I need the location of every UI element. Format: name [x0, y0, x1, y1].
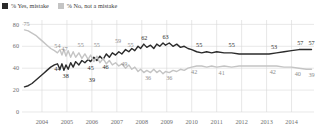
chart-legend: % Yes, mistake % No, not a mistake	[2, 2, 117, 9]
data-label: 53	[271, 43, 277, 50]
data-label: 36	[145, 74, 151, 81]
x-tick-label: 2006	[86, 118, 98, 125]
data-label: 39	[89, 76, 95, 83]
data-label: 38	[63, 72, 69, 79]
data-label: 57	[297, 39, 303, 46]
data-label: 39	[308, 71, 314, 78]
data-label: 63	[162, 33, 168, 40]
legend-item-yes[interactable]: % Yes, mistake	[2, 2, 49, 9]
legend-swatch-yes	[2, 3, 8, 9]
legend-item-no[interactable]: % No, not a mistake	[58, 2, 117, 9]
legend-swatch-no	[58, 3, 64, 9]
data-label: 42	[270, 68, 276, 75]
data-label: 44	[54, 65, 60, 72]
x-tick-label: 2010	[186, 118, 198, 125]
data-label: 54	[54, 42, 60, 49]
line-chart-svg: 020406080 443845463962635555535757755447…	[0, 14, 316, 118]
data-label: 55	[94, 41, 100, 48]
x-tick-label: 2012	[235, 118, 247, 125]
x-tick-label: 2014	[285, 118, 297, 125]
data-label: 45	[88, 64, 94, 71]
data-label: 42	[191, 68, 197, 75]
data-label: 55	[229, 41, 235, 48]
y-axis-tick-labels: 020406080	[13, 21, 19, 116]
x-axis: 2004200520062007200820092010201120122013…	[0, 116, 316, 128]
data-label: 75	[23, 20, 29, 27]
x-axis-tick-labels: 2004200520062007200820092010201120122013…	[36, 118, 298, 125]
x-tick-label: 2009	[161, 118, 173, 125]
x-tick-label: 2013	[260, 118, 272, 125]
data-label: 59	[115, 37, 121, 44]
y-tick-label: 0	[16, 108, 19, 115]
y-tick-label: 40	[13, 64, 19, 71]
y-tick-label: 60	[13, 42, 19, 49]
x-tick-label: 2007	[111, 118, 123, 125]
data-label: 36	[166, 74, 172, 81]
data-label: 55	[78, 41, 84, 48]
data-label: 47	[61, 45, 67, 52]
data-label: 57	[308, 39, 314, 46]
x-tick-label: 2011	[211, 118, 223, 125]
data-label: 62	[141, 34, 147, 41]
x-tick-label: 2008	[136, 118, 148, 125]
y-tick-label: 20	[13, 86, 19, 93]
plot-area: 020406080 443845463962635555535757755447…	[0, 14, 316, 118]
legend-label-no: % No, not a mistake	[67, 2, 117, 9]
data-label: 55	[196, 41, 202, 48]
data-label: 55	[127, 41, 133, 48]
x-axis-svg: 2004200520062007200820092010201120122013…	[0, 116, 316, 128]
data-label: 40	[295, 70, 301, 77]
y-tick-label: 80	[13, 21, 19, 28]
legend-label-yes: % Yes, mistake	[11, 2, 49, 9]
x-tick-label: 2005	[61, 118, 73, 125]
chart-page: % Yes, mistake % No, not a mistake 02040…	[0, 0, 316, 133]
data-label: 49	[121, 60, 127, 67]
x-tick-label: 2004	[36, 118, 48, 125]
data-label: 46	[103, 63, 109, 70]
data-label: 41	[219, 69, 225, 76]
